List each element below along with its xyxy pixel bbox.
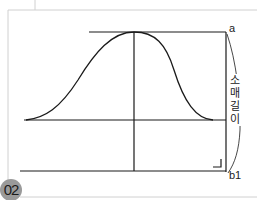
- point-label-b1: b1: [229, 169, 241, 181]
- right-angle-mark: [213, 159, 221, 167]
- sleeve-cap-curve: [26, 32, 213, 120]
- label-char-2: 매: [228, 87, 242, 100]
- sleeve-length-label: 소 매 길 이: [228, 74, 242, 126]
- label-char-4: 이: [228, 113, 242, 126]
- figure-number-badge: 02: [0, 179, 22, 200]
- label-char-1: 소: [228, 74, 242, 87]
- sleeve-diagram: [0, 0, 257, 200]
- point-label-a: a: [229, 22, 235, 34]
- label-char-3: 길: [228, 100, 242, 113]
